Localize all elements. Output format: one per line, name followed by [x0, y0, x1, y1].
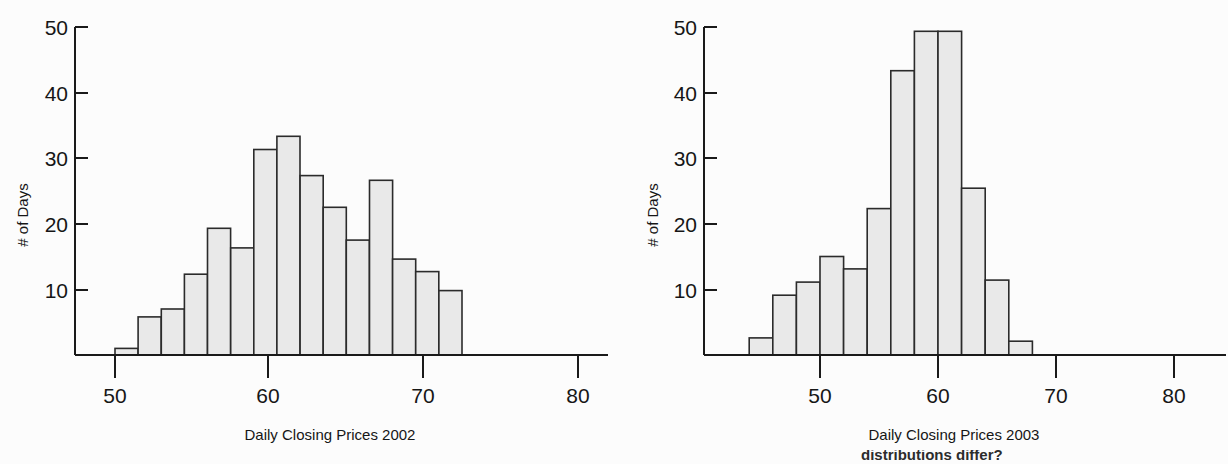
bar-2002-4 [208, 228, 231, 355]
bar-2003-4 [844, 269, 868, 355]
bar-2002-14 [439, 291, 462, 355]
y-tick-label-20-2003: 20 [674, 213, 697, 236]
bar-2003-9 [962, 188, 986, 355]
bar-2002-13 [416, 272, 439, 355]
x-tick-label-70-2002: 70 [411, 384, 434, 407]
y-axis-title-2002: # of Days [14, 183, 31, 246]
y-tick-label-50-2002: 50 [45, 16, 68, 39]
clipped-caption-strip: distributions differ? [0, 450, 1228, 464]
bar-2002-11 [370, 180, 393, 355]
bar-2002-12 [393, 259, 416, 355]
bar-2002-7 [277, 136, 300, 355]
bar-2003-2 [796, 282, 820, 355]
x-tick-label-60-2003: 60 [926, 384, 949, 407]
x-tick-label-70-2003: 70 [1044, 384, 1067, 407]
bar-2003-8 [938, 31, 962, 355]
bar-2003-11 [1009, 341, 1033, 355]
y-tick-label-30-2002: 30 [45, 147, 68, 170]
bar-2002-2 [161, 309, 184, 355]
y-tick-label-10-2002: 10 [45, 279, 68, 302]
chart-2002-canvas: # of Days 50 40 30 20 10 [0, 0, 614, 464]
y-tick-label-50-2003: 50 [674, 16, 697, 39]
histogram-panel-2002: # of Days 50 40 30 20 10 [0, 0, 614, 464]
x-tick-label-50-2002: 50 [103, 384, 126, 407]
y-tick-label-20-2002: 20 [45, 213, 68, 236]
x-axis-title-2002: Daily Closing Prices 2002 [245, 426, 416, 443]
bar-2003-1 [773, 295, 797, 355]
bars-group-2002 [115, 136, 462, 355]
chart-2003-canvas: # of Days 50 40 30 20 10 [614, 0, 1228, 464]
y-tick-label-40-2003: 40 [674, 82, 697, 105]
y-tick-label-30-2003: 30 [674, 147, 697, 170]
x-tick-label-80-2002: 80 [566, 384, 589, 407]
bar-2002-6 [254, 150, 277, 356]
y-tick-label-40-2002: 40 [45, 82, 68, 105]
bar-2002-8 [300, 176, 323, 355]
bar-2003-0 [749, 338, 773, 355]
y-axis-title-2003: # of Days [644, 183, 661, 246]
x-axis-title-2003: Daily Closing Prices 2003 [869, 426, 1040, 443]
bar-2002-9 [323, 207, 346, 355]
clipped-caption-text: distributions differ? [861, 450, 1003, 463]
bar-2003-5 [867, 209, 891, 355]
x-tick-label-50-2003: 50 [808, 384, 831, 407]
bar-2002-3 [184, 274, 207, 355]
x-tick-label-80-2003: 80 [1162, 384, 1185, 407]
bar-2003-3 [820, 257, 844, 356]
bar-2003-7 [914, 31, 938, 355]
y-tick-label-10-2003: 10 [674, 279, 697, 302]
bar-2002-1 [138, 317, 161, 355]
bar-2002-5 [231, 248, 254, 355]
bar-2003-10 [985, 280, 1009, 355]
x-tick-label-60-2002: 60 [256, 384, 279, 407]
bars-group-2003 [749, 31, 1032, 355]
figure-page: # of Days 50 40 30 20 10 [0, 0, 1228, 464]
histogram-panel-2003: # of Days 50 40 30 20 10 [614, 0, 1228, 464]
bar-2003-6 [891, 71, 915, 355]
bar-2002-10 [346, 240, 369, 355]
